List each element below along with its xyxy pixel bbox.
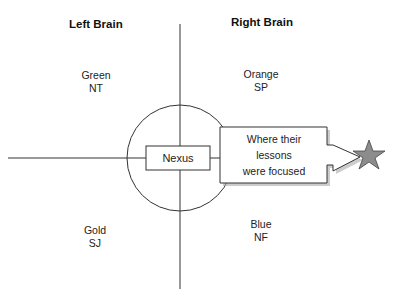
quadrant-color: Blue (245, 218, 277, 231)
quadrant-top-right: Orange SP (236, 68, 286, 94)
quadrant-bottom-right: Blue NF (245, 218, 277, 244)
quadrant-code: NT (76, 82, 116, 95)
nexus-label: Nexus (146, 146, 210, 170)
quadrant-code: SP (236, 81, 286, 94)
star-icon (353, 140, 385, 169)
quadrant-color: Green (76, 69, 116, 82)
quadrant-bottom-left: Gold SJ (78, 224, 112, 250)
quadrant-top-left: Green NT (76, 69, 116, 95)
quadrant-color: Orange (236, 68, 286, 81)
quadrant-color: Gold (78, 224, 112, 237)
callout-line-3: were focused (222, 163, 326, 179)
callout-line-1: Where their (222, 131, 326, 147)
right-brain-header: Right Brain (231, 16, 293, 28)
callout-text: Where their lessons were focused (222, 131, 326, 179)
left-brain-header: Left Brain (69, 18, 123, 30)
callout-line-2: lessons (222, 147, 326, 163)
quadrant-code: NF (245, 231, 277, 244)
quadrant-code: SJ (78, 237, 112, 250)
